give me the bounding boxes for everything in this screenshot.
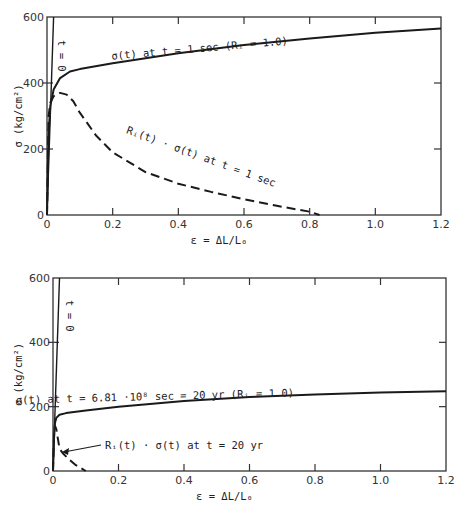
x-tick-label: 0.2 — [110, 474, 128, 487]
x-tick-label: 0.6 — [241, 474, 259, 487]
t0-label: t = 0 — [56, 40, 68, 72]
x-tick-label: 0.6 — [235, 218, 253, 231]
x-tick-label: 0.8 — [301, 218, 319, 231]
x-tick-label: 0.4 — [170, 218, 188, 231]
x-tick-label: 0.4 — [175, 474, 193, 487]
x-tick-label: 1.0 — [372, 474, 390, 487]
y-tick-label: 400 — [23, 77, 44, 90]
y-tick-label: 0 — [43, 465, 50, 478]
solid-curve — [53, 391, 446, 471]
dashed-curve-label: Rᵢ(t) · σ(t) at t = 20 yr — [105, 439, 263, 451]
y-tick-label: 0 — [37, 209, 44, 222]
x-tick-label: 1.0 — [367, 218, 385, 231]
y-tick-label: 600 — [23, 11, 44, 24]
y-tick-label: 600 — [29, 272, 50, 285]
t0-label: t = 0 — [64, 300, 76, 332]
x-axis-label: ε = ΔL/L₀ — [191, 234, 248, 246]
solid-curve-label: σ(t) at t = 1 sec (Rᵢ = 1.0) — [111, 34, 288, 61]
x-tick-label: 1.2 — [432, 218, 450, 231]
top-chart-panel: 00.20.40.60.81.01.20200400600t = 0σ(t) a… — [12, 11, 450, 246]
x-tick-label: 0.2 — [104, 218, 122, 231]
x-tick-label: 0 — [44, 218, 51, 231]
stress-strain-figure: 00.20.40.60.81.01.20200400600t = 0σ(t) a… — [0, 0, 467, 510]
y-axis-label: σ (kg/cm²) — [12, 343, 24, 406]
y-tick-label: 200 — [23, 143, 44, 156]
bottom-chart-panel: 00.20.40.60.81.01.20200400600t = 0σ(t) a… — [12, 272, 455, 502]
dashed-curve-label: Rᵢ(t) · σ(t) at t = 1 sec — [125, 124, 278, 189]
x-tick-label: 1.2 — [437, 474, 455, 487]
solid-curve — [47, 29, 441, 215]
annotation-arrow — [64, 445, 101, 452]
y-axis-label: σ (kg/cm²) — [12, 84, 24, 147]
x-tick-label: 0.8 — [306, 474, 324, 487]
y-tick-label: 400 — [29, 336, 50, 349]
x-tick-label: 0 — [50, 474, 57, 487]
x-axis-label: ε = ΔL/L₀ — [196, 490, 253, 502]
